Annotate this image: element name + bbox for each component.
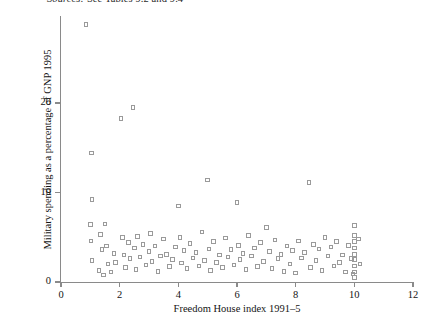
data-point	[317, 247, 322, 252]
x-tick-mark	[354, 282, 355, 287]
data-point	[141, 242, 146, 247]
x-tick-label: 12	[401, 289, 425, 300]
data-point	[178, 235, 183, 240]
data-point	[161, 237, 166, 242]
data-point	[358, 262, 363, 267]
data-point	[147, 249, 152, 254]
data-point	[346, 243, 351, 248]
data-point	[267, 249, 272, 254]
data-point	[343, 270, 348, 275]
data-point	[320, 268, 325, 273]
data-point	[164, 252, 169, 257]
data-point	[88, 222, 93, 227]
data-point	[89, 151, 94, 156]
y-tick-mark	[55, 192, 60, 193]
data-point	[282, 269, 287, 274]
data-point	[134, 267, 139, 272]
data-point	[270, 266, 275, 271]
data-point	[109, 270, 114, 275]
figure-scatter-plot: Sources: See Tables 9.2 and 9.4 01020 02…	[0, 0, 434, 323]
data-point	[123, 265, 128, 270]
data-point	[326, 254, 331, 259]
data-point	[84, 22, 89, 27]
data-point	[232, 263, 237, 268]
data-point	[261, 259, 266, 264]
data-point	[246, 233, 251, 238]
data-point	[217, 253, 222, 258]
data-point	[293, 271, 298, 276]
data-point	[323, 235, 328, 240]
data-point	[205, 178, 210, 183]
data-point	[238, 257, 243, 262]
data-point	[235, 200, 240, 205]
x-tick-label: 10	[342, 289, 366, 300]
x-axis-title: Freedom House index 1991–5	[60, 303, 414, 314]
data-point	[90, 197, 95, 202]
data-point	[299, 256, 304, 261]
data-point	[104, 244, 109, 249]
data-point	[211, 239, 216, 244]
data-point	[329, 245, 334, 250]
data-point	[176, 204, 181, 209]
data-point	[194, 250, 199, 255]
data-point	[290, 248, 295, 253]
data-point	[89, 239, 94, 244]
y-tick-mark	[55, 281, 60, 282]
data-point	[153, 244, 158, 249]
data-point	[208, 268, 213, 273]
x-tick-mark	[178, 282, 179, 287]
data-point	[191, 256, 196, 261]
plot-area: 01020 024681012 Military spending as a p…	[0, 0, 434, 323]
data-point	[131, 105, 136, 110]
x-tick-mark	[119, 282, 120, 287]
y-tick-label: 0	[29, 275, 51, 286]
y-tick-mark	[55, 102, 60, 103]
data-point	[132, 246, 137, 251]
data-point	[249, 254, 254, 259]
data-point	[173, 245, 178, 250]
data-point	[214, 260, 219, 265]
data-point	[241, 251, 246, 256]
data-point	[185, 266, 190, 271]
x-tick-label: 4	[166, 289, 190, 300]
x-tick-label: 0	[49, 289, 73, 300]
x-tick-label: 8	[284, 289, 308, 300]
data-point	[200, 230, 205, 235]
data-point	[340, 253, 345, 258]
data-point	[244, 267, 249, 272]
data-point	[207, 247, 212, 252]
data-point	[113, 260, 118, 265]
data-point	[351, 272, 356, 277]
data-point	[90, 258, 95, 263]
x-tick-mark	[412, 282, 413, 287]
data-point	[352, 223, 357, 228]
data-point	[236, 243, 241, 248]
data-point	[202, 258, 207, 263]
data-point	[288, 262, 293, 267]
data-point	[223, 236, 228, 241]
data-point	[285, 244, 290, 249]
data-point	[138, 255, 143, 260]
data-point	[98, 232, 103, 237]
data-point	[307, 180, 312, 185]
data-point	[279, 252, 284, 257]
data-point	[106, 262, 111, 267]
x-tick-label: 6	[225, 289, 249, 300]
data-point	[255, 264, 260, 269]
data-point	[128, 256, 133, 261]
x-tick-mark	[60, 282, 61, 287]
data-point	[126, 240, 131, 245]
data-point	[308, 265, 313, 270]
data-point	[352, 252, 357, 257]
data-point	[220, 265, 225, 270]
data-point	[334, 239, 339, 244]
y-axis-line	[60, 16, 61, 283]
data-point	[170, 257, 175, 262]
data-point	[150, 259, 155, 264]
data-point	[156, 269, 161, 274]
data-point	[226, 255, 231, 260]
data-point	[158, 254, 163, 259]
data-point	[352, 264, 357, 269]
data-point	[356, 237, 361, 242]
data-point	[276, 256, 281, 261]
